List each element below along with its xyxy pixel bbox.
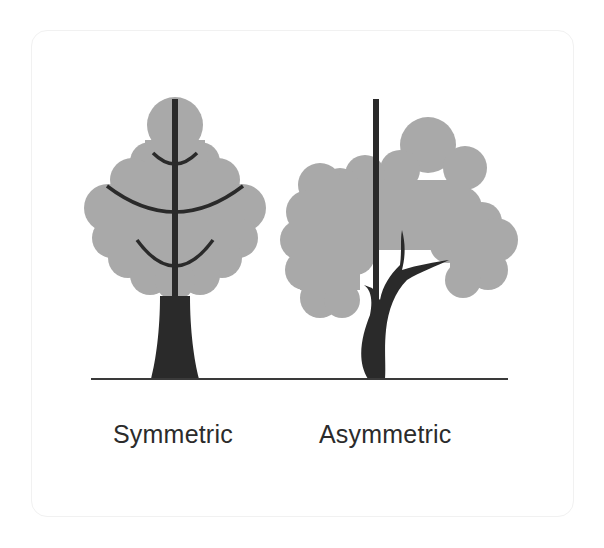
trees-illustration (0, 0, 604, 548)
asymmetric-tree-icon (280, 99, 518, 379)
symmetric-tree-icon (84, 97, 266, 379)
asymmetric-label: Asymmetric (319, 420, 452, 449)
symmetric-label: Symmetric (113, 420, 233, 449)
ground-line (91, 378, 508, 380)
